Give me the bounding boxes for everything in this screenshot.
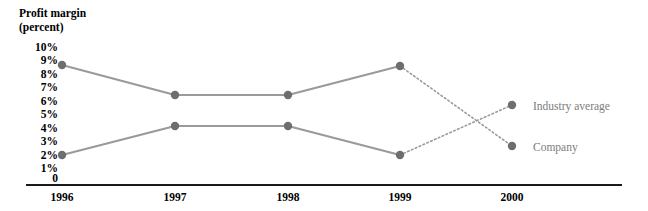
x-tick-1996: 1996	[27, 191, 97, 204]
x-tick-1999: 1999	[365, 191, 435, 204]
series-industry-average-line	[62, 65, 400, 95]
legend-item-company: Company	[533, 141, 578, 154]
data-point-company-2000	[508, 101, 516, 109]
data-point-industry-average-1997	[171, 91, 179, 99]
x-tick-1998: 1998	[253, 191, 323, 204]
series-company-line	[62, 126, 400, 155]
data-point-company-1997	[171, 122, 179, 130]
data-point-industry-average-1999	[396, 62, 404, 70]
data-point-company-1998	[284, 122, 292, 130]
data-point-company-1999	[396, 151, 404, 159]
x-axis-line	[26, 184, 622, 186]
legend-item-industry-average: Industry average	[533, 100, 610, 113]
x-tick-1997: 1997	[140, 191, 210, 204]
data-point-industry-average-1998	[284, 91, 292, 99]
series-company-projection	[400, 105, 512, 155]
data-point-company-1996	[58, 151, 66, 159]
data-point-industry-average-2000	[508, 142, 516, 150]
profit-margin-line-chart: Profit margin(percent) 10% 9% 8% 7% 6% 5…	[0, 0, 648, 211]
series-industry-average-projection	[400, 66, 512, 146]
x-tick-2000: 2000	[477, 191, 547, 204]
data-point-industry-average-1996	[58, 61, 66, 69]
